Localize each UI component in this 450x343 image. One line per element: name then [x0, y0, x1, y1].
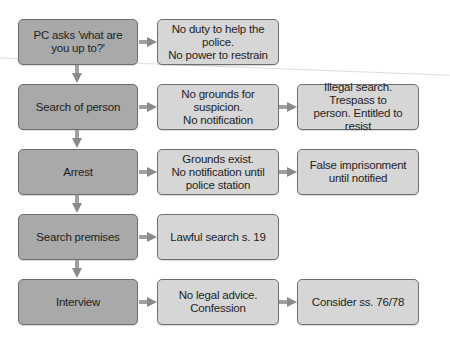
stage-box-search-premises: Search premises	[18, 214, 138, 260]
outcome-box-no-legal-advice: No legal advice. Confession	[157, 279, 279, 325]
arrow-down-icon	[72, 130, 82, 148]
arrow-down-icon	[72, 195, 82, 213]
arrow-right-icon	[139, 232, 157, 242]
outcome-box-lawful-search: Lawful search s. 19	[157, 214, 279, 260]
arrow-right-icon	[279, 297, 297, 307]
outcome-label: Lawful search s. 19	[170, 231, 265, 244]
arrow-right-icon	[139, 297, 157, 307]
stage-box-interview: Interview	[18, 279, 138, 325]
outcome-box-grounds-exist: Grounds exist. No notification until pol…	[157, 149, 279, 195]
outcome-label: No duty to help the police. No power to …	[164, 23, 272, 62]
stage-label: Search of person	[36, 101, 120, 114]
stage-label: Search premises	[36, 231, 119, 244]
outcome-label: No grounds for suspicion. No notificatio…	[164, 88, 272, 127]
stage-label: Arrest	[63, 166, 92, 179]
stage-label: Interview	[56, 296, 100, 309]
arrow-down-icon	[72, 260, 82, 278]
outcome-box-illegal-search: Illegal search. Trespass to person. Enti…	[297, 84, 419, 130]
stage-box-pc-asks: PC asks 'what are you up to?'	[18, 19, 138, 65]
stage-label: PC asks 'what are you up to?'	[25, 29, 131, 55]
stage-box-search-of-person: Search of person	[18, 84, 138, 130]
outcome-box-no-grounds: No grounds for suspicion. No notificatio…	[157, 84, 279, 130]
outcome-box-consider-ss: Consider ss. 76/78	[297, 279, 419, 325]
arrow-down-icon	[72, 65, 82, 83]
arrow-right-icon	[139, 102, 157, 112]
outcome-label: Consider ss. 76/78	[312, 296, 404, 309]
arrow-right-icon	[139, 37, 157, 47]
arrow-right-icon	[139, 167, 157, 177]
stage-box-arrest: Arrest	[18, 149, 138, 195]
outcome-label: No legal advice. Confession	[179, 289, 258, 315]
arrow-right-icon	[279, 167, 297, 177]
arrow-right-icon	[279, 102, 297, 112]
outcome-box-false-imprisonment: False imprisonment until notified	[297, 149, 419, 195]
outcome-box-no-duty: No duty to help the police. No power to …	[157, 19, 279, 65]
outcome-label: Grounds exist. No notification until pol…	[172, 153, 265, 192]
outcome-label: Illegal search. Trespass to person. Enti…	[304, 81, 412, 133]
outcome-label: False imprisonment until notified	[310, 159, 407, 185]
